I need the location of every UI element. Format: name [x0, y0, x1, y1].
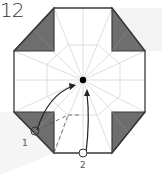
point-1-label: 1 [22, 138, 28, 148]
origami-diagram [0, 0, 162, 175]
point-2-label: 2 [80, 160, 86, 170]
point-2-marker [79, 149, 87, 157]
center-dot [80, 77, 86, 83]
